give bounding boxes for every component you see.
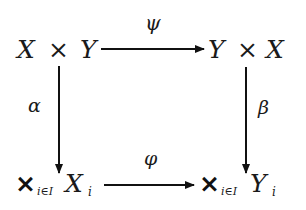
node-bottom-left-index: i∈I <box>37 185 54 198</box>
commutative-diagram: X × Y Y × X ψ α β × i∈I X i φ × i∈I Y i <box>0 0 306 210</box>
node-top-left-times: × <box>48 35 69 64</box>
node-top-right-y: Y <box>208 35 227 64</box>
node-bottom-left-sub-i: i <box>88 185 92 199</box>
node-top-right: Y × X <box>208 35 285 64</box>
arrow-left: α <box>28 66 59 173</box>
node-top-right-times: × <box>237 35 258 64</box>
node-top-left: X × Y <box>15 35 99 64</box>
node-top-left-x: X <box>15 35 36 64</box>
arrow-top: ψ <box>101 11 204 49</box>
arrow-bottom: φ <box>104 147 194 185</box>
arrow-top-label-psi: ψ <box>145 11 161 35</box>
node-bottom-right-index: i∈I <box>221 185 238 198</box>
product-symbol-icon: × <box>15 169 36 198</box>
arrow-left-label-alpha: α <box>28 94 41 116</box>
node-bottom-right-y: Y <box>250 169 269 198</box>
node-bottom-left-x: X <box>63 169 84 198</box>
arrow-bottom-label-phi: φ <box>144 147 158 169</box>
node-top-right-x: X <box>264 35 285 64</box>
arrow-right-label-beta: β <box>257 96 269 118</box>
node-top-left-y: Y <box>80 35 99 64</box>
node-bottom-left: × i∈I X i <box>15 169 92 199</box>
node-bottom-right-sub-i: i <box>272 185 276 199</box>
node-bottom-right: × i∈I Y i <box>199 169 276 199</box>
arrow-right: β <box>246 67 269 173</box>
product-symbol-icon: × <box>199 169 220 198</box>
